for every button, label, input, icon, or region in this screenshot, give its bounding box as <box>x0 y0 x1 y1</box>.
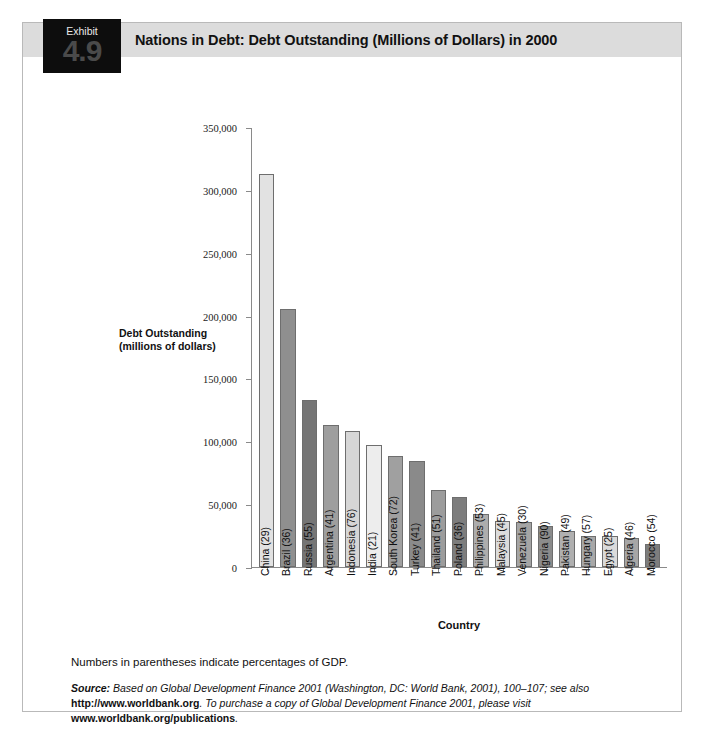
chart-area: Debt Outstanding (millions of dollars) 0… <box>23 57 681 657</box>
source-mid-3: , please visit <box>473 697 531 709</box>
source-note: Source: Based on Global Development Fina… <box>71 681 661 726</box>
x-axis-tick-label: Egypt (25) <box>602 528 614 576</box>
y-axis-tick: 250,000 <box>246 254 251 255</box>
x-axis-tick-label: Venezuela (30) <box>516 505 528 576</box>
plot-region: 050,000100,000150,000200,000250,000300,0… <box>251 128 666 568</box>
gdp-note: Numbers in parentheses indicate percenta… <box>71 656 348 668</box>
y-axis-tick-label: 50,000 <box>208 500 237 511</box>
y-axis-tick-label: 250,000 <box>203 248 237 259</box>
x-axis-tick-label: China (29) <box>259 527 271 576</box>
x-axis-tick-label: Hungary (57) <box>580 515 592 576</box>
y-axis-tick: 350,000 <box>246 128 251 129</box>
exhibit-number: 4.9 <box>43 34 121 68</box>
source-work-1: Global Development Finance 2001 <box>160 682 322 694</box>
y-axis-tick: 0 <box>246 568 251 569</box>
x-axis-tick-label: Philippines (53) <box>473 504 485 576</box>
y-axis-tick-label: 150,000 <box>203 374 237 385</box>
exhibit-tab: Exhibit 4.9 <box>43 19 121 73</box>
x-axis-title: Country <box>251 619 667 631</box>
source-url-1[interactable]: http://www.worldbank.org <box>71 697 200 709</box>
x-axis-tick-label: Algeria (46) <box>623 522 635 576</box>
y-axis-tick-label: 0 <box>232 563 237 574</box>
y-axis-tick-label: 100,000 <box>203 437 237 448</box>
x-axis-tick-label: Thailand (51) <box>430 514 442 576</box>
source-mid-1: (Washington, DC: World Bank, 2001), 100–… <box>322 682 589 694</box>
y-axis-tick: 300,000 <box>246 191 251 192</box>
y-axis-tick: 50,000 <box>246 505 251 506</box>
x-axis-tick-label: Brazil (36) <box>280 528 292 576</box>
x-axis-tick-label: Pakistan (49) <box>559 514 571 576</box>
y-axis-tick: 200,000 <box>246 317 251 318</box>
x-axis-tick-label: Argentina (41) <box>323 509 335 576</box>
y-axis-title-line2: (millions of dollars) <box>119 340 241 353</box>
source-end: . <box>235 712 238 724</box>
source-work-2: Global Development Finance 2001 <box>311 697 473 709</box>
x-axis-tick-label: India (21) <box>366 532 378 576</box>
y-axis-tick-label: 350,000 <box>203 123 237 134</box>
source-mid-2: . To purchase a copy of <box>200 697 312 709</box>
x-axis-tick-label: Russia (55) <box>302 522 314 576</box>
bar <box>259 174 274 567</box>
source-url-2[interactable]: www.worldbank.org/publications <box>71 712 235 724</box>
y-axis-line <box>251 128 252 569</box>
source-lead: Based on <box>110 682 160 694</box>
x-axis-tick-label: Nigeria (90) <box>538 521 550 576</box>
source-prefix: Source: <box>71 682 110 694</box>
y-axis-tick: 150,000 <box>246 379 251 380</box>
x-axis-tick-label: Malaysia (45) <box>495 513 507 576</box>
x-axis-tick-label: Morocco (54) <box>645 514 657 576</box>
exhibit-title: Nations in Debt: Debt Outstanding (Milli… <box>135 23 557 57</box>
y-axis-title-line1: Debt Outstanding <box>119 327 241 340</box>
x-axis-tick-label: Turkey (41) <box>409 523 421 576</box>
exhibit-frame: Exhibit 4.9 Nations in Debt: Debt Outsta… <box>22 22 682 712</box>
y-axis-tick-label: 200,000 <box>203 311 237 322</box>
y-axis-title: Debt Outstanding (millions of dollars) <box>119 327 241 353</box>
y-axis-tick-label: 300,000 <box>203 185 237 196</box>
y-axis-tick: 100,000 <box>246 442 251 443</box>
x-axis-tick-label: Poland (36) <box>452 522 464 576</box>
x-axis-tick-label: Indonesia (76) <box>345 509 357 576</box>
x-axis-tick-label: South Korea (72) <box>387 496 399 576</box>
